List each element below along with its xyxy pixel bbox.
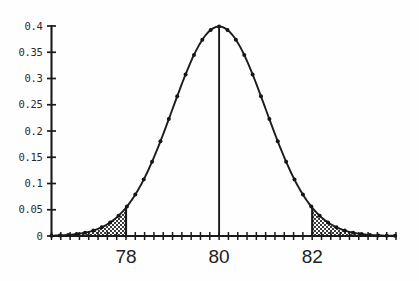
curve-point-marker	[259, 94, 263, 98]
y-axis-tick-label: 0.3	[24, 72, 42, 84]
y-axis-tick-label: 0.2	[24, 125, 42, 137]
curve-point-marker	[267, 117, 271, 121]
curve-point-marker	[158, 139, 162, 143]
curve-point-marker	[150, 160, 154, 164]
y-axis-tick-label: 0	[36, 230, 42, 242]
curve-point-marker	[209, 28, 213, 32]
curve-point-marker	[117, 214, 121, 218]
y-axis-tick-label: 0.05	[18, 203, 42, 215]
curve-point-marker	[91, 229, 95, 233]
x-axis-tick-label: 78	[115, 246, 136, 267]
curve-point-marker	[251, 72, 255, 76]
normal-distribution-chart: 00.050.10.150.20.250.30.350.4 788082	[0, 0, 419, 281]
curve-point-marker	[142, 178, 146, 182]
curve-point-marker	[318, 214, 322, 218]
curve-point-marker	[83, 231, 87, 235]
curve-point-marker	[184, 72, 188, 76]
y-axis-tick-label: 0.25	[18, 98, 42, 110]
y-axis-tick-labels: 00.050.10.150.20.250.30.350.4	[18, 20, 42, 242]
curve-point-marker	[242, 53, 246, 57]
curve-point-marker	[100, 225, 104, 229]
curve-point-marker	[284, 160, 288, 164]
density-curve	[52, 27, 397, 236]
curve-point-marker	[276, 139, 280, 143]
x-axis-tick-label: 80	[209, 246, 230, 267]
data-point-markers	[50, 25, 398, 238]
curve-point-marker	[234, 38, 238, 42]
x-axis-tick-labels: 788082	[115, 246, 322, 267]
curve-point-marker	[192, 53, 196, 57]
curve-point-marker	[301, 193, 305, 197]
curve-point-marker	[326, 220, 330, 224]
curve-point-marker	[133, 193, 137, 197]
density-curve-path	[52, 27, 397, 236]
curve-point-marker	[343, 229, 347, 233]
axes	[52, 25, 397, 236]
curve-point-marker	[351, 231, 355, 235]
y-axis-tick-label: 0.1	[24, 177, 42, 189]
curve-point-marker	[225, 28, 229, 32]
y-axis-tick-label: 0.35	[18, 46, 42, 58]
annotation-lines	[126, 26, 312, 236]
x-axis-tick-label: 82	[302, 246, 323, 267]
curve-point-marker	[293, 178, 297, 182]
curve-point-marker	[175, 94, 179, 98]
curve-point-marker	[334, 225, 338, 229]
curve-point-marker	[200, 38, 204, 42]
curve-point-marker	[108, 220, 112, 224]
y-axis-tick-label: 0.15	[18, 151, 42, 163]
chart-canvas: 00.050.10.150.20.250.30.350.4 788082	[0, 0, 419, 281]
y-axis-tick-label: 0.4	[24, 20, 42, 32]
curve-point-marker	[167, 117, 171, 121]
